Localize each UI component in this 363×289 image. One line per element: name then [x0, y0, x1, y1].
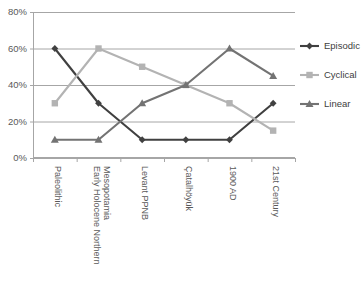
legend-item-linear[interactable]: Linear — [300, 98, 350, 109]
data-point — [226, 100, 232, 106]
x-tick-label: Early Holocene Northern — [92, 166, 102, 265]
line-chart: 0%20%40%60%80% PaleolithicEarly Holocene… — [0, 0, 363, 289]
y-tick-label: 60% — [8, 43, 28, 54]
data-point — [95, 45, 101, 51]
y-tick-marks — [30, 13, 33, 159]
data-point — [52, 100, 58, 106]
legend-item-episodic[interactable]: Episodic — [300, 40, 360, 51]
chart-legend: EpisodicCyclicalLinear — [300, 40, 360, 109]
x-tick-label: Çatalhöyük — [184, 166, 194, 212]
legend-swatch-marker — [306, 43, 313, 50]
legend-label: Episodic — [324, 40, 360, 51]
y-tick-label: 80% — [8, 6, 28, 17]
legend-swatch-marker — [306, 72, 312, 78]
y-tick-labels: 0%20%40%60%80% — [8, 6, 28, 163]
x-tick-label: Levant PPNB — [140, 166, 150, 220]
legend-label: Linear — [324, 98, 350, 109]
legend-label: Cyclical — [324, 69, 357, 80]
y-tick-label: 40% — [8, 79, 28, 90]
data-point — [139, 64, 145, 70]
y-tick-label: 0% — [13, 152, 27, 163]
x-tick-labels: PaleolithicEarly Holocene NorthernMesopo… — [53, 166, 281, 265]
x-tick-label: Paleolithic — [53, 166, 63, 208]
chart-canvas: 0%20%40%60%80% PaleolithicEarly Holocene… — [0, 0, 363, 289]
data-point — [270, 127, 276, 133]
x-tick-label: 21st Century — [271, 166, 281, 218]
x-tick-label: 1900 AD — [228, 166, 238, 201]
x-tick-label: Mesopotamia — [102, 166, 112, 220]
legend-item-cyclical[interactable]: Cyclical — [300, 69, 357, 80]
y-tick-label: 20% — [8, 116, 28, 127]
